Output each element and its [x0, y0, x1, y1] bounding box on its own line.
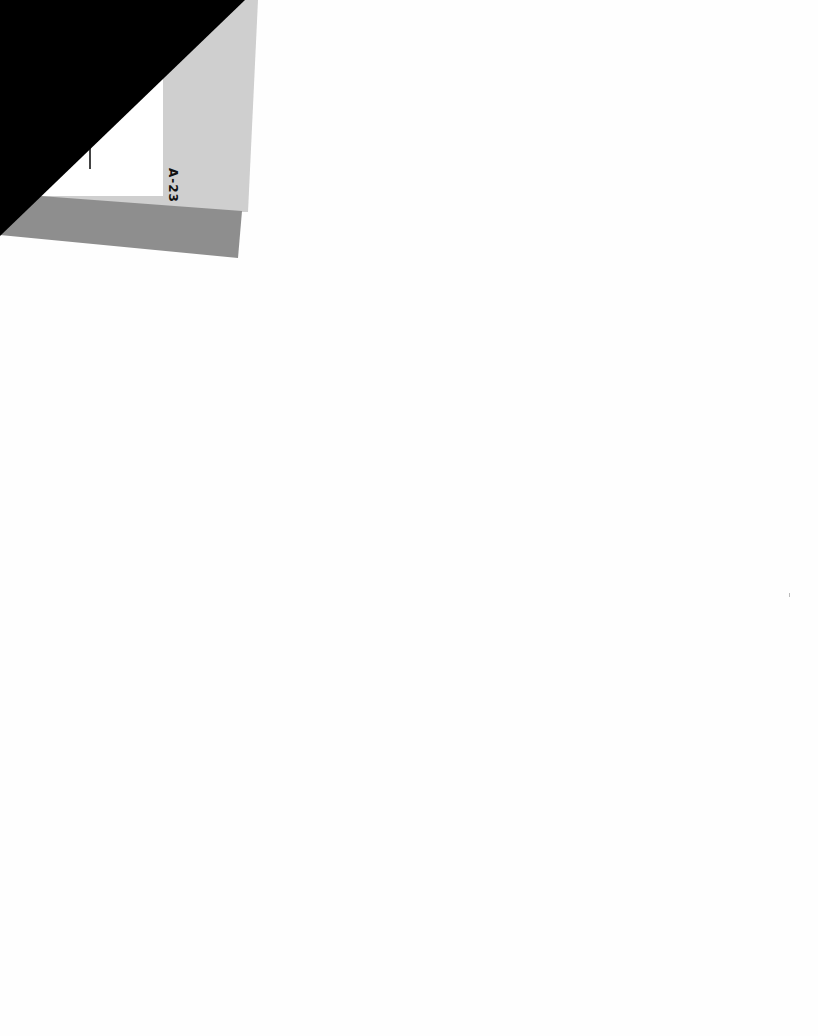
- scan-speck: [789, 593, 790, 597]
- bleed-through-text-bottom: [10, 990, 810, 1030]
- tab-label: A-23: [166, 168, 180, 203]
- bleed-through-text-top: [262, 2, 802, 42]
- document-page: A-23: [0, 0, 818, 1036]
